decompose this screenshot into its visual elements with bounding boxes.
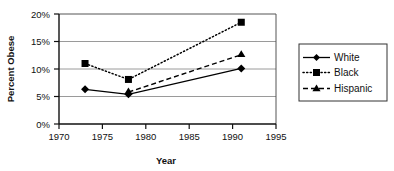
x-axis: 1970 1975 1980 1985 1990 1995 (48, 124, 286, 142)
legend-label-black: Black (334, 67, 359, 78)
square-marker-icon (313, 69, 320, 76)
x-tick-label-1975: 1975 (92, 131, 113, 142)
x-tick-label-1995: 1995 (265, 131, 286, 142)
y-axis: 20% 15% 10% 5% 0% (31, 9, 59, 130)
legend-label-hispanic: Hispanic (334, 83, 372, 94)
x-tick-label-1985: 1985 (179, 131, 200, 142)
x-axis-title: Year (156, 155, 176, 166)
y-tick-label-0: 0% (36, 119, 50, 130)
y-tick-label-15: 15% (31, 36, 51, 47)
series-black-point-1978 (125, 76, 132, 83)
legend-label-white: White (334, 52, 360, 63)
series-black-point-1991 (238, 19, 245, 26)
x-tick-label-1970: 1970 (48, 131, 69, 142)
chart-legend: White Black Hispanic (299, 44, 387, 101)
y-axis-title: Percent Obese (5, 36, 16, 103)
chart-svg: 20% 15% 10% 5% 0% 1970 1975 1980 1985 19… (0, 0, 394, 171)
x-tick-label-1980: 1980 (135, 131, 156, 142)
y-tick-label-5: 5% (36, 91, 50, 102)
y-tick-label-10: 10% (31, 64, 51, 75)
y-tick-label-20: 20% (31, 9, 51, 20)
series-black-point-1973 (82, 60, 89, 67)
chart-figure: 20% 15% 10% 5% 0% 1970 1975 1980 1985 19… (0, 0, 394, 171)
x-tick-label-1990: 1990 (222, 131, 243, 142)
